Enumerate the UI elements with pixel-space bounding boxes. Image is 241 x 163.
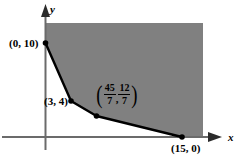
point-label-3-4: (3, 4) — [44, 96, 68, 107]
vertex-marker-45-7-12-7 — [94, 113, 100, 119]
fraction-numerator-12: 12 — [118, 83, 130, 93]
vertex-marker-0-10 — [43, 40, 49, 46]
y-axis-label: y — [50, 4, 55, 15]
right-paren: ) — [132, 83, 138, 106]
point-label-45-7-12-7: ( 45 7 , 12 7 ) — [95, 83, 139, 106]
point-label-15-0: (15, 0) — [171, 143, 200, 154]
vertex-marker-15-0 — [179, 134, 185, 140]
point-label-0-10: (0, 10) — [9, 38, 38, 49]
left-paren: ( — [96, 83, 102, 106]
fraction-denominator-7: 7 — [121, 96, 128, 106]
y-axis-arrowhead — [41, 4, 50, 17]
shaded-feasible-region — [46, 23, 204, 137]
fraction-numerator-45: 45 — [104, 83, 116, 93]
fraction-45-over-7: 45 7 — [104, 83, 116, 106]
vertex-marker-3-4 — [68, 98, 74, 104]
x-axis-arrowhead — [208, 132, 222, 142]
feasible-region-figure: y x (0, 10) (3, 4) (15, 0) ( 45 7 , 12 7… — [0, 0, 241, 163]
fraction-denominator-7: 7 — [106, 96, 113, 106]
fraction-12-over-7: 12 7 — [118, 83, 130, 106]
x-axis-label: x — [228, 132, 234, 143]
